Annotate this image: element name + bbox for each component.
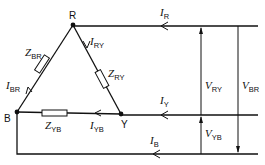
line-r [73, 22, 258, 30]
delta-circuit-diagram: R Y B ZBR ZRY ZYB IBR IRY IYB IR IY IB V… [0, 0, 265, 165]
label-iy: IY [159, 94, 169, 109]
node-y [119, 112, 124, 117]
voltage-vbr [236, 26, 240, 153]
node-r [71, 23, 76, 28]
label-node-y: Y [121, 119, 128, 130]
line-b [17, 112, 258, 158]
label-iyb: IYB [89, 119, 104, 134]
arrow-vry-icon [199, 27, 203, 34]
label-node-r: R [69, 10, 76, 21]
label-node-b: B [4, 113, 11, 124]
line-y [121, 111, 258, 119]
label-zbr: ZBR [25, 46, 42, 61]
label-ibr: IBR [5, 79, 21, 94]
branch-br [17, 25, 73, 112]
label-iry: IRY [89, 35, 104, 50]
impedance-zyb [42, 110, 67, 116]
arrow-vbr-icon [236, 146, 240, 153]
label-ir: IR [159, 6, 170, 21]
label-vry: VRY [205, 79, 222, 94]
label-zyb: ZYB [45, 119, 61, 134]
label-vyb: VYB [205, 127, 222, 142]
label-ib: IB [149, 134, 159, 149]
branch-yb [17, 110, 121, 116]
label-vbr: VBR [242, 79, 260, 94]
arrow-vyb-icon [199, 116, 203, 123]
voltage-vyb [199, 116, 203, 154]
impedance-zry [95, 70, 109, 89]
label-zry: ZRY [108, 67, 124, 82]
voltage-vry [199, 27, 203, 115]
